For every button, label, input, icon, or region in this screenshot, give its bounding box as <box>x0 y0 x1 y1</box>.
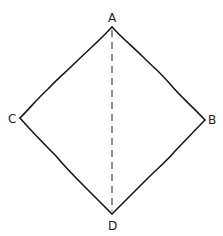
vertex-label-a: A <box>108 11 117 25</box>
edge-ca <box>20 27 112 118</box>
vertex-label-c: C <box>8 112 16 126</box>
edge-bd <box>112 120 205 214</box>
vertex-label-d: D <box>108 219 117 233</box>
vertex-label-b: B <box>208 113 216 127</box>
edge-dc <box>20 118 112 214</box>
rhombus-diagram: A B C D <box>0 0 223 236</box>
edge-ab <box>112 27 205 120</box>
